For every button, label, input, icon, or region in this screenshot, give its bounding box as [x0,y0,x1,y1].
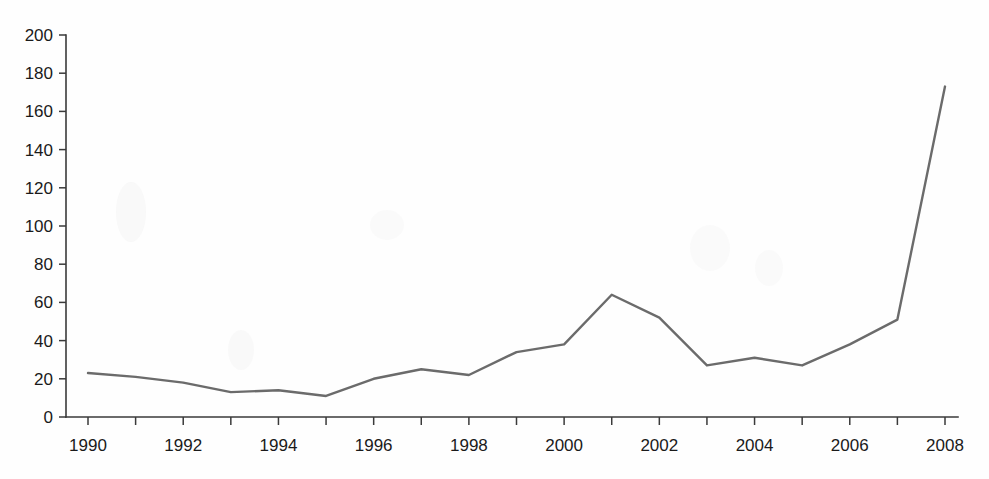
x-axis-tick-label: 2002 [640,436,678,455]
y-axis-tick-label: 0 [44,408,53,427]
y-axis-tick-label: 180 [25,64,53,83]
x-axis-tick-label: 2006 [831,436,869,455]
y-axis-tick-label: 80 [34,255,53,274]
x-axis-tick-label: 1990 [69,436,107,455]
x-axis-tick-label: 1992 [164,436,202,455]
x-axis-tick-label: 2004 [736,436,774,455]
line-chart: 0204060801001201401601802001990199219941… [0,0,989,479]
x-axis-tick-label: 2008 [926,436,964,455]
y-axis-tick-label: 140 [25,141,53,160]
y-axis-tick-label: 160 [25,102,53,121]
y-axis-tick-label: 200 [25,26,53,45]
y-axis-tick-label: 60 [34,293,53,312]
y-axis-tick-label: 120 [25,179,53,198]
x-axis-tick-label: 1994 [260,436,298,455]
y-axis-tick-label: 20 [34,370,53,389]
y-axis-tick-label: 100 [25,217,53,236]
data-series-line [88,87,945,396]
x-axis-tick-label: 1996 [355,436,393,455]
x-axis-tick-label: 1998 [450,436,488,455]
y-axis-tick-label: 40 [34,332,53,351]
x-axis-tick-label: 2000 [545,436,583,455]
chart-canvas: 0204060801001201401601802001990199219941… [0,0,989,479]
